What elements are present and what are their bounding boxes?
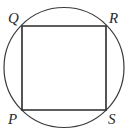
geometry-figure: Q R P S: [0, 0, 134, 134]
square-pqrs: [22, 26, 106, 110]
vertex-label-q: Q: [8, 10, 19, 26]
diagram-canvas: Q R P S: [0, 0, 134, 134]
vertex-label-s: S: [108, 111, 116, 127]
vertex-label-p: P: [7, 111, 17, 127]
vertex-label-r: R: [108, 10, 118, 26]
